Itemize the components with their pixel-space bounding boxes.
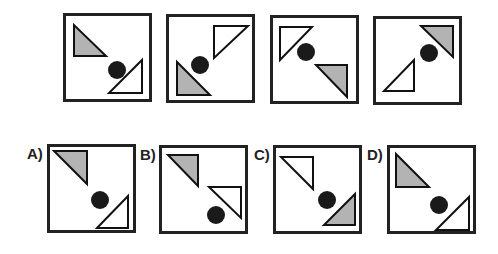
sequence-figure-2 — [166, 14, 255, 103]
answer-option-c[interactable] — [273, 145, 362, 234]
gray-triangle-icon — [74, 25, 106, 56]
black-circle-icon — [420, 44, 438, 62]
white-triangle-icon — [281, 157, 313, 189]
figure-canvas — [373, 16, 462, 105]
option-label-a: A) — [27, 146, 43, 161]
gray-triangle-icon — [54, 151, 87, 184]
black-circle-icon — [108, 61, 126, 79]
figure-canvas — [63, 13, 152, 102]
black-circle-icon — [430, 196, 448, 214]
option-label-d: D) — [367, 147, 383, 162]
figure-canvas — [273, 145, 362, 234]
figure-canvas — [387, 145, 476, 234]
answer-option-a[interactable] — [47, 144, 136, 233]
black-circle-icon — [318, 191, 336, 209]
answer-option-d[interactable] — [387, 145, 476, 234]
option-label-b: B) — [140, 147, 156, 162]
figure-canvas — [159, 145, 248, 234]
sequence-figure-3 — [270, 15, 359, 104]
black-circle-icon — [207, 206, 225, 224]
sequence-figure-4 — [373, 16, 462, 105]
black-circle-icon — [297, 43, 315, 61]
black-circle-icon — [191, 56, 209, 74]
gray-triangle-icon — [316, 65, 347, 97]
option-label-c: C) — [254, 147, 270, 162]
answer-option-b[interactable] — [159, 145, 248, 234]
gray-triangle-icon — [396, 154, 429, 187]
sequence-figure-1 — [63, 13, 152, 102]
figure-canvas — [166, 14, 255, 103]
black-circle-icon — [91, 191, 109, 209]
figure-canvas — [47, 144, 136, 233]
gray-triangle-icon — [168, 155, 198, 186]
white-triangle-icon — [214, 26, 248, 58]
white-triangle-icon — [384, 60, 414, 91]
figure-canvas — [270, 15, 359, 104]
